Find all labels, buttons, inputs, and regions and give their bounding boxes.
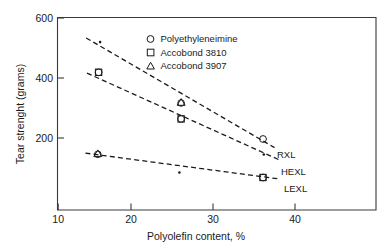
circle-icon (147, 36, 154, 43)
y-tick-label-400: 400 (35, 72, 53, 84)
legend-label-2: Accobond 3907 (161, 60, 227, 71)
x-axis-title: Polyolefin content, % (147, 230, 245, 242)
legend-entry-accobond-3907: Accobond 3907 (147, 60, 227, 71)
legend-label-0: Polyethyleneimine (161, 33, 238, 44)
x-axis-tick-labels: 10 20 30 40 (52, 213, 301, 225)
data-point-rxl-2 (177, 99, 185, 107)
x-tick-label-20: 20 (125, 213, 137, 225)
legend-entry-accobond-3810: Accobond 3810 (147, 47, 226, 58)
data-point-rxl-1-dot (99, 41, 102, 44)
data-point-hexl-3-dot (263, 153, 266, 156)
y-axis-tick-labels: 600 400 200 (35, 12, 53, 144)
data-point-hexl-2 (178, 116, 185, 123)
series-label-hexl: HEXL (281, 166, 306, 177)
y-tick-label-600: 600 (35, 12, 53, 24)
series-label-lexl: LEXL (284, 183, 307, 194)
circle-marker (178, 116, 185, 123)
y-axis-title: Tear strenght (grams) (14, 64, 26, 164)
x-axis-ticks (58, 204, 295, 211)
series-label-rxl: RXL (277, 149, 295, 160)
y-axis-ticks (58, 18, 65, 138)
legend-label-1: Accobond 3810 (161, 47, 227, 58)
data-point-lexl-1 (94, 150, 102, 158)
y-tick-label-200: 200 (35, 132, 53, 144)
circle-marker (95, 69, 102, 76)
chart-legend: Polyethyleneimine Accobond 3810 Accobond… (147, 33, 238, 71)
triangle-icon (147, 62, 155, 69)
data-point-lexl-2-dot (178, 171, 181, 174)
data-points-lexl (94, 150, 267, 181)
x-tick-label-40: 40 (289, 213, 301, 225)
legend-entry-polyethyleneimine: Polyethyleneimine (147, 33, 238, 44)
data-points-hexl (95, 69, 265, 156)
series-labels: RXL HEXL LEXL (277, 149, 307, 194)
tear-strength-vs-polyolefin-chart: 600 400 200 Tear strenght (grams) 10 20 … (0, 0, 392, 250)
chart-figure: 600 400 200 Tear strenght (grams) 10 20 … (0, 0, 392, 250)
square-icon (147, 49, 154, 56)
x-tick-label-10: 10 (52, 213, 64, 225)
x-tick-label-30: 30 (207, 213, 219, 225)
trend-lines (85, 38, 280, 179)
trend-line-lexl (85, 153, 280, 179)
data-point-hexl-1 (95, 69, 102, 76)
